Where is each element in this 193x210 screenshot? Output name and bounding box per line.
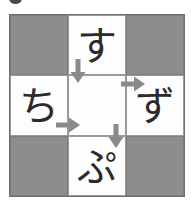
grid-cell-r3c3[interactable] [126,136,184,196]
grid-cell-kana: ぷ [77,147,117,187]
grid-cell-kana: ち [19,86,59,126]
crossword-grid: す ち ず ぷ [9,14,185,197]
grid-cell-kana: す [77,26,117,66]
grid-cell-r1c2[interactable]: す [68,15,126,75]
grid-cell-r2c1[interactable]: ち [10,75,68,135]
grid-cell-r2c3[interactable]: ず [126,75,184,135]
bottom-edge-divider [0,209,193,210]
grid-cell-r3c2[interactable]: ぷ [68,136,126,196]
grid-cell-kana: ず [135,86,175,126]
grid-cell-r3c1[interactable] [10,136,68,196]
grid-cell-r2c2[interactable] [68,75,126,135]
partial-circle-mark-icon [9,0,22,4]
puzzle-screenshot: す ち ず ぷ [0,0,193,210]
grid-cell-r1c3[interactable] [126,15,184,75]
grid-cell-r1c1[interactable] [10,15,68,75]
